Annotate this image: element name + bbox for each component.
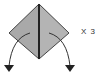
folded-paper-diamond <box>9 4 69 59</box>
repeat-count-label: X 3 <box>81 27 96 36</box>
origami-diagram <box>0 0 98 74</box>
